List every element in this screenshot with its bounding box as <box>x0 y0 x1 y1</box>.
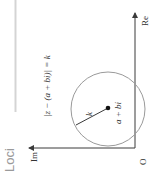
center-point <box>106 106 111 111</box>
real-axis-label: Re <box>140 16 150 26</box>
center-label: a + bi <box>113 101 123 124</box>
loci-diagram: Loci Im Re O k a + bi |z − (a + bi)| = k <box>0 0 150 179</box>
section-title: Loci <box>2 148 17 172</box>
origin-label: O <box>138 158 148 165</box>
radius-label: k <box>84 111 94 116</box>
imaginary-axis-label: Im <box>29 152 39 162</box>
locus-equation: |z − (a + bi)| = k <box>42 54 52 117</box>
